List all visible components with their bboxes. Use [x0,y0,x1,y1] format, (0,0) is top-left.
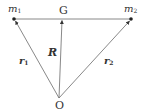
mass-point-m1 [12,17,16,21]
label-r1-subscript: 1 [24,59,28,66]
label-r1-vector: r1 [19,56,28,66]
label-m1: m1 [8,4,21,14]
mass-point-m2 [129,17,133,21]
vector-r2-arrow [59,21,130,98]
label-m2-subscript: 2 [133,7,137,14]
label-R-vector: R [48,47,57,58]
label-m1-subscript: 1 [17,7,21,14]
label-r2-subscript: 2 [109,59,113,66]
label-O-origin: O [55,100,64,111]
label-m2: m2 [124,4,137,14]
label-G-center-of-mass: G [59,5,68,16]
vector-R-arrow [59,21,62,99]
center-of-mass-diagram: m1 m2 G O R r1 r2 [0,0,144,112]
label-r2-vector: r2 [104,56,113,66]
